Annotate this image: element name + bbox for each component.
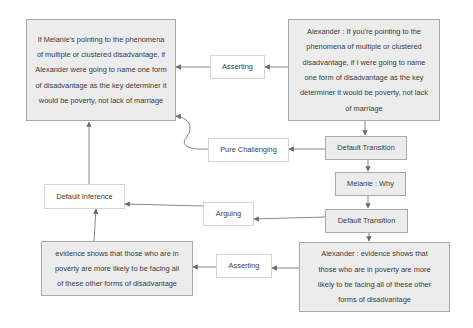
node-melanie-why[interactable]: Melanie : Why bbox=[335, 172, 406, 196]
node-asserting-bottom[interactable]: Asserting bbox=[216, 254, 272, 278]
node-default-inference[interactable]: Default Inference bbox=[44, 184, 125, 209]
node-alexander-evidence[interactable]: Alexander : evidence shows that those wh… bbox=[299, 242, 450, 312]
node-text: Melanie : Why bbox=[347, 176, 394, 191]
node-text: Alexander : If you're pointing to the ph… bbox=[299, 24, 429, 116]
node-text: Asserting bbox=[229, 258, 260, 273]
node-asserting-top[interactable]: Asserting bbox=[210, 55, 265, 79]
node-text: evidence shows that those who are in pov… bbox=[52, 246, 182, 292]
edge-dt2-to-arguing bbox=[254, 217, 325, 219]
node-text: Arguing bbox=[216, 206, 241, 221]
node-default-transition-1[interactable]: Default Transition bbox=[325, 136, 407, 160]
node-text: Asserting bbox=[222, 59, 253, 74]
node-text: Default Transition bbox=[337, 140, 395, 155]
node-text: Default Transition bbox=[338, 213, 396, 228]
node-alexander-claim[interactable]: Alexander : If you're pointing to the ph… bbox=[288, 19, 440, 121]
node-text: If Melanie's pointing to the phenomena o… bbox=[35, 32, 167, 108]
node-melanie-paraphrase[interactable]: If Melanie's pointing to the phenomena o… bbox=[26, 19, 176, 121]
node-text: Pure Challenging bbox=[220, 142, 277, 157]
node-pure-challenging[interactable]: Pure Challenging bbox=[208, 138, 289, 162]
node-text: Alexander : evidence shows that those wh… bbox=[312, 246, 437, 307]
node-evidence-premise[interactable]: evidence shows that those who are in pov… bbox=[41, 241, 193, 296]
node-text: Default Inference bbox=[56, 189, 112, 204]
edge-pure-challenging-to-paraphrase bbox=[176, 116, 208, 149]
node-default-transition-2[interactable]: Default Transition bbox=[325, 209, 408, 233]
edge-arguing-to-inference bbox=[125, 204, 203, 206]
node-arguing[interactable]: Arguing bbox=[203, 202, 254, 226]
edge-evidence-to-inference bbox=[94, 209, 96, 241]
